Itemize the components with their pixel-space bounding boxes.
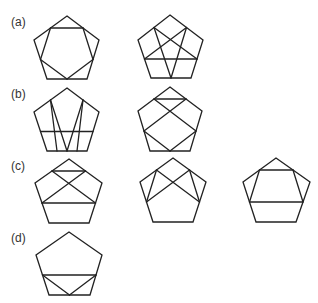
inner-line bbox=[52, 171, 96, 203]
pentagon-outline bbox=[35, 159, 102, 223]
inner-line bbox=[144, 99, 186, 131]
inner-line bbox=[70, 275, 97, 295]
inner-line bbox=[42, 171, 86, 203]
inner-line bbox=[41, 60, 68, 80]
inner-line bbox=[51, 100, 68, 151]
inner-line bbox=[147, 170, 190, 202]
inner-line bbox=[157, 170, 200, 202]
inner-line bbox=[144, 131, 170, 151]
figure-b2 bbox=[138, 87, 202, 151]
figure-c3 bbox=[243, 158, 310, 222]
figure-c1 bbox=[35, 159, 102, 223]
inner-line bbox=[154, 28, 171, 79]
inner-line bbox=[41, 28, 51, 60]
figure-b1 bbox=[34, 88, 99, 151]
inner-line bbox=[147, 170, 157, 202]
inner-line bbox=[43, 275, 70, 295]
figure-c2 bbox=[140, 158, 206, 222]
figure-a1 bbox=[34, 16, 99, 79]
inner-line bbox=[293, 170, 303, 202]
pentagon-outline bbox=[138, 15, 203, 78]
inner-line bbox=[83, 28, 93, 60]
inner-line bbox=[67, 60, 93, 80]
inner-line bbox=[170, 131, 196, 151]
pentagon-figures-canvas bbox=[0, 0, 318, 303]
inner-line bbox=[145, 28, 187, 60]
inner-line bbox=[171, 28, 187, 79]
inner-line bbox=[154, 28, 197, 60]
inner-line bbox=[250, 170, 260, 202]
inner-line bbox=[190, 170, 200, 202]
pentagon-outline bbox=[34, 88, 99, 151]
inner-line bbox=[51, 100, 58, 151]
figure-a2 bbox=[138, 15, 203, 78]
pentagon-outline bbox=[138, 87, 202, 151]
inner-line bbox=[154, 99, 196, 131]
pentagon-outline bbox=[36, 232, 102, 295]
figure-d bbox=[36, 232, 102, 295]
